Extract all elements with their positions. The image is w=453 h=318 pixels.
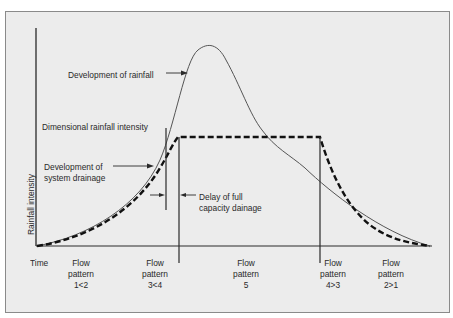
- rainfall-pointer-arrow: [166, 71, 188, 76]
- delay-right-arrow: [180, 193, 196, 197]
- dimensional-intensity-label: Dimensional rainfall intensity: [42, 121, 148, 132]
- system-drainage-label-line1: Development of: [44, 161, 103, 172]
- system-drainage-label-line2: system drainage: [44, 172, 105, 183]
- region-flow-pattern-4: Flowpattern4>3: [315, 257, 352, 290]
- region-flow-pattern-1: Flowpattern1<2: [63, 257, 100, 290]
- delay-label-line2: capacity dainage: [199, 202, 262, 213]
- delay-left-arrow: [150, 193, 165, 197]
- region-flow-pattern-2: Flowpattern3<4: [137, 257, 174, 290]
- region-flow-pattern-3: Flowpattern5: [228, 257, 265, 290]
- x-axis-time-label: Time: [30, 257, 48, 268]
- y-axis-label: Rainfall intensity: [25, 174, 36, 235]
- region-flow-pattern-5: Flowpattern2>1: [373, 257, 410, 290]
- delay-label-line1: Delay of full: [199, 191, 243, 202]
- rainfall-development-label: Development of rainfall: [68, 69, 154, 80]
- drainage-pointer-arrow: [113, 164, 154, 169]
